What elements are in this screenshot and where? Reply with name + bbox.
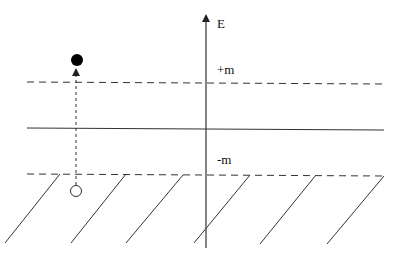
label-plus-m: +m bbox=[217, 62, 234, 77]
hatch-line bbox=[194, 175, 250, 243]
hatch-line bbox=[327, 176, 384, 244]
dirac-sea-hatching bbox=[5, 174, 384, 244]
upper-gap-edge-line bbox=[27, 82, 383, 84]
hatch-line bbox=[5, 174, 60, 243]
particle-filled-circle bbox=[71, 54, 83, 66]
axis-label-e: E bbox=[217, 16, 225, 31]
hatch-line bbox=[126, 175, 183, 243]
hatch-line bbox=[260, 175, 316, 244]
hole-open-circle bbox=[71, 186, 82, 197]
energy-diagram: E +m -m bbox=[0, 0, 394, 254]
hatch-line bbox=[71, 174, 126, 243]
label-minus-m: -m bbox=[217, 152, 231, 167]
